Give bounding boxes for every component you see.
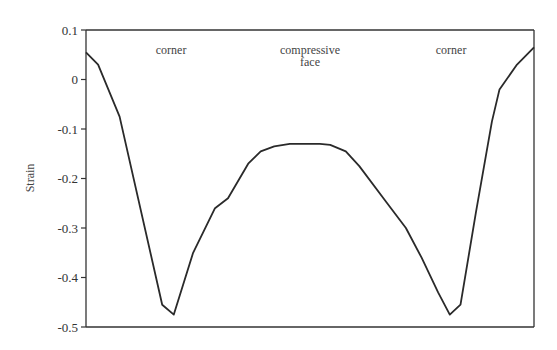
strain-chart: 0.10-0.1-0.2-0.3-0.4-0.5 Strain cornerco… xyxy=(0,0,557,350)
y-tick-label: -0.5 xyxy=(57,320,78,335)
y-tick-label: 0.1 xyxy=(62,23,78,38)
y-axis-label: Strain xyxy=(23,164,37,193)
annotation-label: corner xyxy=(436,43,467,57)
annotation-label: corner xyxy=(156,43,187,57)
y-tick-label: 0 xyxy=(72,72,79,87)
annotation-label: face xyxy=(300,55,320,69)
strain-line xyxy=(86,47,534,314)
plot-frame xyxy=(86,30,534,327)
y-tick-label: -0.2 xyxy=(57,171,78,186)
annotations: cornercompressivefacecorner xyxy=(156,43,467,69)
y-ticks: 0.10-0.1-0.2-0.3-0.4-0.5 xyxy=(57,23,86,335)
y-tick-label: -0.3 xyxy=(57,221,78,236)
y-tick-label: -0.1 xyxy=(57,122,78,137)
y-tick-label: -0.4 xyxy=(57,270,78,285)
